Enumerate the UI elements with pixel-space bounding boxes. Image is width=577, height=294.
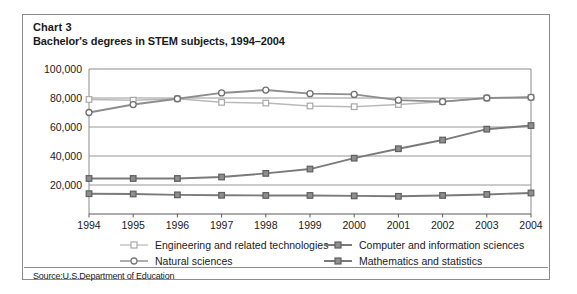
- x-axis-tick-label: 1997: [210, 219, 234, 231]
- data-point-marker: [351, 193, 357, 199]
- legend-item-computer-sciences[interactable]: Computer and information sciences: [323, 237, 524, 252]
- legend-marker-natural-sciences: [119, 255, 149, 267]
- data-point-marker: [86, 191, 92, 197]
- data-point-marker: [307, 103, 313, 109]
- legend-item-engineering[interactable]: Engineering and related technologies: [119, 237, 328, 252]
- data-point-marker: [440, 99, 446, 105]
- y-axis-tick-label: 100,000: [44, 63, 82, 75]
- chart-legend: Engineering and related technologies Nat…: [23, 237, 549, 269]
- data-point-marker: [528, 123, 534, 129]
- data-point-marker: [86, 97, 92, 103]
- y-axis-tick-label: 60,000: [50, 121, 82, 133]
- legend-label-natural-sciences: Natural sciences: [155, 255, 233, 267]
- data-point-marker: [174, 96, 180, 102]
- data-point-marker: [528, 190, 534, 196]
- chart-figure: Chart 3 Bachelor's degrees in STEM subje…: [22, 14, 550, 280]
- x-axis-tick-label: 2002: [431, 219, 455, 231]
- chart-number: Chart 3: [33, 21, 285, 35]
- data-point-marker: [528, 94, 534, 100]
- data-point-marker: [130, 176, 136, 182]
- page-title: Bachelor's degrees in STEM subjects, 199…: [33, 35, 285, 49]
- legend-label-mathematics: Mathematics and statistics: [359, 255, 482, 267]
- x-axis-tick-label: 1999: [298, 219, 322, 231]
- data-point-marker: [263, 100, 269, 106]
- source-note: Source:U.S.Department of Education: [33, 271, 174, 281]
- legend-marker-computer-sciences: [323, 239, 353, 251]
- data-point-marker: [484, 126, 490, 132]
- legend-label-computer-sciences: Computer and information sciences: [359, 239, 524, 251]
- data-point-marker: [351, 104, 357, 110]
- x-axis-tick-label: 2000: [343, 219, 367, 231]
- data-point-marker: [440, 193, 446, 199]
- data-point-marker: [263, 87, 269, 93]
- data-point-marker: [484, 95, 490, 101]
- x-axis-tick-label: 2003: [475, 219, 499, 231]
- data-point-marker: [130, 191, 136, 197]
- data-point-marker: [440, 137, 446, 143]
- data-point-marker: [219, 90, 225, 96]
- x-axis-tick-label: 1995: [122, 219, 146, 231]
- data-point-marker: [86, 176, 92, 182]
- data-point-marker: [86, 110, 92, 116]
- data-point-marker: [130, 102, 136, 108]
- data-point-marker: [484, 192, 490, 198]
- data-point-marker: [263, 171, 269, 177]
- plot-area: 20,00040,00060,00080,000100,000199419951…: [23, 55, 549, 235]
- legend-item-mathematics[interactable]: Mathematics and statistics: [323, 253, 482, 268]
- data-point-marker: [396, 194, 402, 200]
- title-block: Chart 3 Bachelor's degrees in STEM subje…: [33, 21, 285, 49]
- x-axis-tick-label: 1998: [254, 219, 278, 231]
- data-point-marker: [351, 91, 357, 97]
- data-point-marker: [351, 155, 357, 161]
- data-point-marker: [307, 166, 313, 172]
- x-axis-tick-label: 2001: [387, 219, 411, 231]
- y-axis-tick-label: 20,000: [50, 179, 82, 191]
- data-point-marker: [219, 192, 225, 198]
- data-point-marker: [307, 193, 313, 199]
- data-point-marker: [396, 146, 402, 152]
- footer-divider: [24, 267, 548, 268]
- y-axis-tick-label: 80,000: [50, 92, 82, 104]
- y-axis-tick-label: 40,000: [50, 150, 82, 162]
- x-axis-tick-label: 1996: [166, 219, 190, 231]
- data-point-marker: [219, 174, 225, 180]
- data-point-marker: [175, 192, 181, 198]
- data-point-marker: [219, 100, 225, 106]
- data-point-marker: [307, 91, 313, 97]
- x-axis-tick-label: 1994: [77, 219, 101, 231]
- data-point-marker: [263, 193, 269, 199]
- legend-label-engineering: Engineering and related technologies: [155, 239, 328, 251]
- x-axis-tick-label: 2004: [519, 219, 543, 231]
- line-chart-svg: 20,00040,00060,00080,000100,000199419951…: [23, 55, 549, 235]
- data-point-marker: [395, 97, 401, 103]
- data-point-marker: [175, 176, 181, 182]
- legend-marker-mathematics: [323, 255, 353, 267]
- legend-marker-engineering: [119, 239, 149, 251]
- legend-item-natural-sciences[interactable]: Natural sciences: [119, 253, 233, 268]
